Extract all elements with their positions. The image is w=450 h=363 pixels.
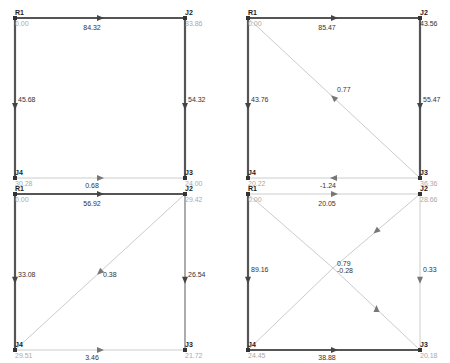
flow-arrow-icon (97, 347, 104, 353)
flow-value: 3.46 (85, 354, 99, 361)
node-pressure: 0.00 (15, 20, 29, 27)
flow-value: 55.47 (423, 96, 441, 103)
flow-value: 26.54 (188, 271, 206, 278)
flow-arrow-icon (330, 175, 337, 181)
panel-4: 20.0589.160.3338.880.79-0.28R10.00J228.6… (245, 185, 438, 361)
node-pressure: 24.45 (248, 352, 266, 359)
flow-value: 0.77 (337, 86, 351, 93)
node-pressure: 29.42 (185, 196, 203, 203)
flow-value: 0.33 (423, 266, 437, 273)
node-pressure: 20.18 (420, 352, 438, 359)
flow-arrow-icon (97, 191, 104, 197)
flow-arrow-icon (97, 175, 104, 181)
flow-value: 38.88 (318, 354, 336, 361)
flow-value: 45.68 (18, 96, 36, 103)
node-label: J2 (185, 185, 193, 192)
node-label: J3 (185, 341, 193, 348)
panel-3: 56.9233.0826.543.460.38R10.00J229.42J321… (12, 185, 206, 361)
node-pressure: 28.66 (420, 196, 438, 203)
flow-arrow-icon (331, 347, 338, 353)
flow-arrow-icon (97, 15, 104, 21)
node-pressure: 43.56 (420, 20, 438, 27)
flow-value: -0.28 (337, 267, 353, 274)
pipe-C-J4[interactable] (248, 268, 333, 350)
node-label: J4 (248, 341, 256, 348)
node-label: J2 (420, 9, 428, 16)
node-label: J3 (420, 169, 428, 176)
node-label: R1 (248, 185, 257, 192)
flow-arrow-icon (245, 103, 251, 110)
flow-value: 89.16 (251, 266, 269, 273)
flow-arrow-icon (12, 103, 18, 110)
flow-arrow-icon (417, 103, 423, 110)
node-label: J3 (420, 341, 428, 348)
flow-arrow-icon (245, 277, 251, 284)
node-label: R1 (15, 9, 24, 16)
node-label: J4 (15, 169, 23, 176)
node-label: J4 (248, 169, 256, 176)
flow-value: 56.92 (83, 200, 101, 207)
flow-value: 85.47 (318, 24, 336, 31)
flow-value: 0.38 (103, 271, 117, 278)
flow-value: 84.32 (83, 24, 101, 31)
flow-arrow-icon (417, 277, 423, 284)
flow-value: 43.76 (251, 96, 269, 103)
node-pressure: 33.86 (185, 20, 203, 27)
flow-value: 0.79 (337, 260, 351, 267)
network-diagram: 84.3245.6854.320.68R10.00J233.86J324.00J… (0, 0, 450, 363)
node-label: J4 (15, 341, 23, 348)
panel-2: 85.4743.7655.47-1.240.77R10.00J243.56J33… (245, 9, 441, 189)
node-pressure: 21.72 (185, 352, 203, 359)
node-label: R1 (15, 185, 24, 192)
flow-arrow-icon (331, 191, 338, 197)
flow-arrow-icon (182, 103, 188, 110)
node-label: R1 (248, 9, 257, 16)
flow-value: 20.05 (318, 200, 336, 207)
flow-value: -1.24 (320, 182, 336, 189)
node-label: J3 (185, 169, 193, 176)
node-label: J2 (420, 185, 428, 192)
node-pressure: 0.00 (248, 196, 262, 203)
flow-arrow-icon (374, 305, 380, 312)
node-pressure: 29.51 (15, 352, 33, 359)
panel-1: 84.3245.6854.320.68R10.00J233.86J324.00J… (12, 9, 206, 189)
flow-value: 54.32 (188, 96, 206, 103)
flow-value: 33.08 (18, 271, 36, 278)
node-pressure: 0.00 (248, 20, 262, 27)
node-pressure: 0.00 (15, 196, 29, 203)
node-label: J2 (185, 9, 193, 16)
flow-arrow-icon (331, 15, 338, 21)
flow-value: 0.68 (85, 182, 99, 189)
